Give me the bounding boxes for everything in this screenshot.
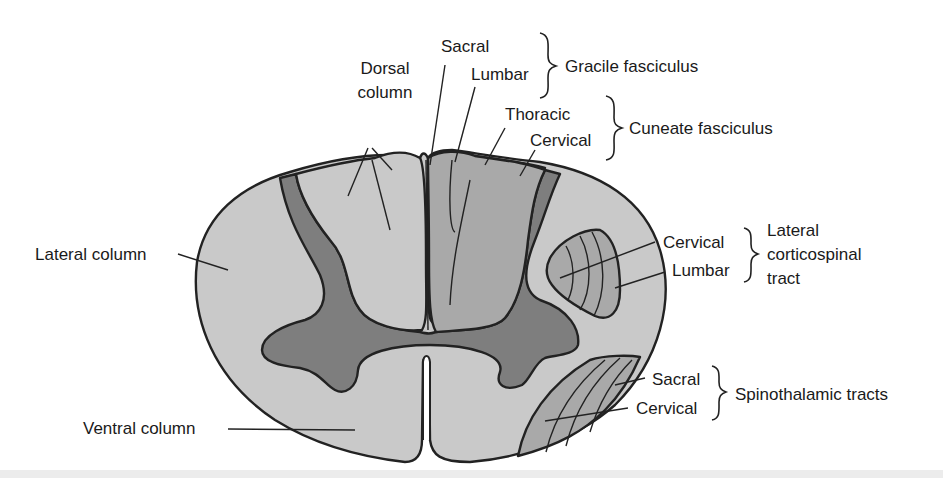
label-gracile-fasciculus: Gracile fasciculus <box>565 57 698 76</box>
label-cuneate-thoracic: Thoracic <box>505 105 571 124</box>
label-dorsal-column-line2: column <box>358 83 413 102</box>
bottom-border-strip <box>0 470 943 478</box>
label-cuneate-cervical: Cervical <box>530 131 591 150</box>
spinal-cord-diagram: Dorsal column Sacral Lumbar Gracile fasc… <box>0 0 943 478</box>
label-corticospinal-cervical: Cervical <box>663 233 724 252</box>
label-lateral-column: Lateral column <box>35 245 147 264</box>
label-spinothalamic-cervical: Cervical <box>636 399 697 418</box>
label-dorsal-column-line1: Dorsal <box>360 59 409 78</box>
label-corticospinal-lumbar: Lumbar <box>672 261 730 280</box>
label-ventral-column: Ventral column <box>83 419 195 438</box>
ventral-median-fissure <box>423 356 430 440</box>
label-lateral-corticospinal-line3: tract <box>767 269 800 288</box>
label-gracile-lumbar: Lumbar <box>471 65 529 84</box>
label-spinothalamic-sacral: Sacral <box>652 370 700 389</box>
label-cuneate-fasciculus: Cuneate fasciculus <box>629 119 773 138</box>
label-lateral-corticospinal-line1: Lateral <box>767 221 819 240</box>
label-spinothalamic-tracts: Spinothalamic tracts <box>735 385 888 404</box>
label-lateral-corticospinal-line2: corticospinal <box>767 245 862 264</box>
label-gracile-sacral: Sacral <box>441 37 489 56</box>
